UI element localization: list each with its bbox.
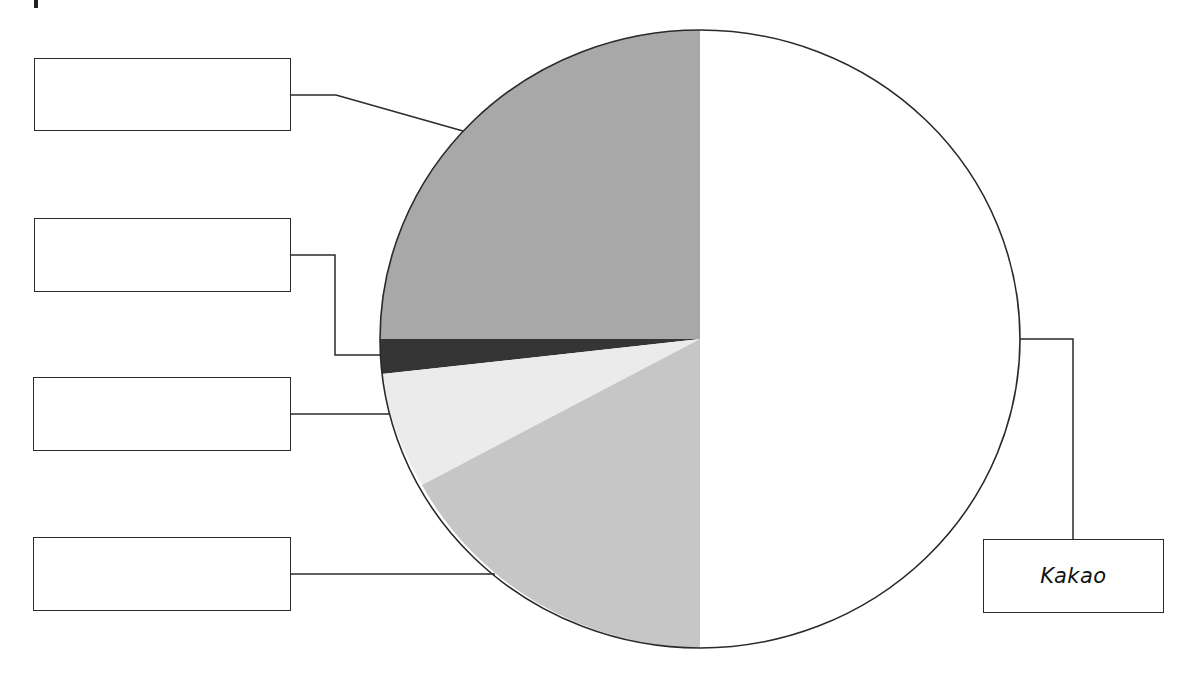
answer-box-1[interactable] [34,58,291,131]
answer-box-4[interactable] [33,537,291,611]
answer-box-3[interactable] [33,377,291,451]
label-kakao-text: Kakao [1040,564,1106,588]
connector-box-kakao [1020,339,1073,539]
connector-box-2 [290,255,381,355]
pie-slice-2 [380,30,700,339]
pie-slice-kakao [700,30,1020,648]
pie-chart-worksheet: Kakao [0,0,1187,675]
connector-box-1 [290,95,463,131]
label-box-kakao: Kakao [983,539,1164,613]
answer-box-2[interactable] [34,218,291,292]
